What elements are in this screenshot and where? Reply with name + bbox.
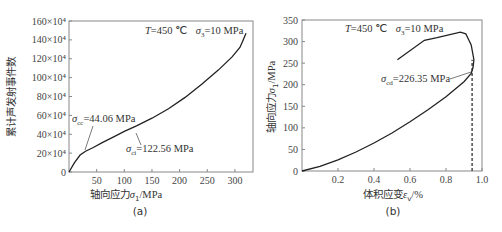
y-tick-label: 350: [283, 15, 298, 26]
caption-a: (a): [133, 205, 148, 217]
y-tick-label: 60×10⁴: [37, 110, 67, 121]
panel-b: 050100150200250300350 0.20.40.60.81.0 T=…: [265, 15, 488, 218]
x-axis-label-b: 体积应变εv/%: [363, 188, 423, 203]
y-tick-label: 40×10⁴: [37, 129, 67, 140]
x-tick-label: 100: [117, 175, 132, 186]
x-tick-label: 0.8: [440, 174, 453, 185]
stress-strain-curve: [302, 32, 474, 171]
x-tick-label: 300: [227, 175, 242, 186]
y-tick-label: 200: [283, 79, 298, 90]
y-tick-label: 160×10⁴: [32, 16, 67, 27]
annotation-sigma-cd: σcd=226.35 MPa: [381, 73, 450, 87]
x-tick-label: 0.4: [368, 174, 381, 185]
plot-frame-b: [302, 20, 482, 171]
y-axis-label-a: 累计声发射事件数: [5, 56, 17, 137]
x-tick-label: 50: [92, 175, 102, 186]
annotation-sigma-cc: σcc=44.06 MPa: [72, 113, 136, 127]
y-tick-label: 100: [283, 122, 298, 133]
panel-a: 020×10⁴40×10⁴60×10⁴80×10⁴100×10⁴120×10⁴1…: [5, 16, 253, 218]
x-tick-label: 0.2: [332, 174, 345, 185]
x-tick-label: 1.0: [476, 174, 489, 185]
x-tick-label: 250: [200, 175, 215, 186]
y-tick-label: 150: [283, 101, 298, 112]
y-axis-a: 020×10⁴40×10⁴60×10⁴80×10⁴100×10⁴120×10⁴1…: [32, 16, 72, 178]
y-axis-label-b: 轴向应力σ1/MPa: [265, 60, 280, 133]
y-tick-label: 80×10⁴: [37, 91, 67, 102]
annotation-sigma-ci: σci=122.56 MPa: [126, 143, 194, 157]
y-tick-label: 100×10⁴: [32, 72, 67, 83]
caption-b: (b): [386, 205, 401, 217]
y-tick-label: 140×10⁴: [32, 34, 67, 45]
x-axis-label-a: 轴向应力σ1/MPa: [90, 188, 163, 203]
x-tick-label: 0.6: [404, 174, 417, 185]
x-tick-label: 200: [172, 175, 187, 186]
y-tick-label: 0: [293, 166, 298, 177]
y-tick-label: 0: [61, 167, 66, 178]
condition-label-a: T=450 ℃ σ3=10 MPa: [145, 25, 244, 39]
y-tick-label: 50: [288, 144, 298, 155]
y-tick-label: 250: [283, 58, 298, 69]
x-tick-label: 150: [144, 175, 159, 186]
y-tick-label: 20×10⁴: [37, 148, 67, 159]
y-tick-label: 120×10⁴: [32, 53, 67, 64]
y-tick-label: 300: [283, 36, 298, 47]
condition-label-b: T=450 ℃ σ3=10 MPa: [345, 23, 444, 37]
figure-canvas: 020×10⁴40×10⁴60×10⁴80×10⁴100×10⁴120×10⁴1…: [0, 0, 502, 232]
leader-line-cc: [85, 126, 93, 150]
